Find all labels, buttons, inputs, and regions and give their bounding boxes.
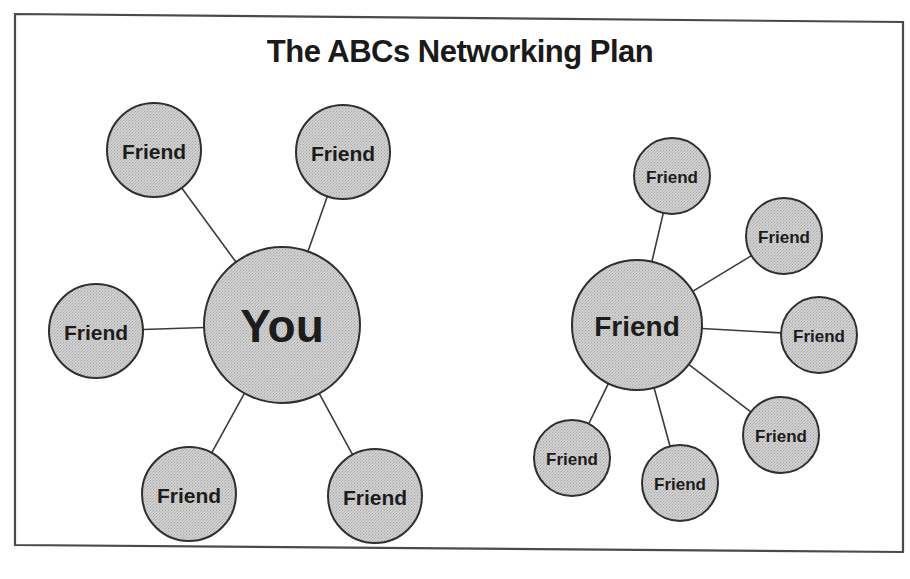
friend-node-label: Friend	[755, 427, 807, 446]
friend-node-label: Friend	[546, 450, 598, 469]
friend-cluster-connector	[689, 364, 751, 411]
friend-node-label: Friend	[122, 140, 186, 163]
friend-cluster-center-node-label: Friend	[594, 311, 680, 342]
friend-node: Friend	[642, 445, 718, 521]
friend-node: Friend	[296, 105, 390, 199]
friend-node-label: Friend	[157, 484, 221, 507]
friend-cluster-connector	[589, 383, 609, 423]
friend-node-label: Friend	[654, 475, 706, 494]
networking-diagram: The ABCs Networking Plan YouFriendFriend…	[0, 0, 910, 579]
friend-cluster-connector	[652, 213, 663, 262]
friend-node: Friend	[534, 420, 610, 496]
friend-node-label: Friend	[758, 228, 810, 247]
node-group: YouFriendFriendFriendFriendFriendFriendF…	[49, 103, 857, 543]
friend-node: Friend	[746, 198, 822, 274]
friend-node: Friend	[743, 397, 819, 473]
friend-node-label: Friend	[343, 486, 407, 509]
you-cluster-center-node-label: You	[240, 300, 323, 352]
friend-cluster-center-node: Friend	[572, 260, 702, 390]
friend-cluster-connector	[654, 388, 670, 447]
you-cluster-connector	[212, 393, 245, 452]
friend-node-label: Friend	[311, 142, 375, 165]
friend-node: Friend	[328, 449, 422, 543]
friend-node-label: Friend	[793, 327, 845, 346]
friend-node-label: Friend	[646, 168, 698, 187]
friend-node: Friend	[781, 297, 857, 373]
friend-cluster-connector	[693, 256, 752, 292]
you-cluster-center-node: You	[204, 247, 360, 403]
friend-node: Friend	[49, 284, 143, 378]
you-cluster-connector	[308, 196, 327, 251]
you-cluster-connector	[182, 188, 236, 262]
friend-node: Friend	[634, 138, 710, 214]
friend-node: Friend	[142, 447, 236, 541]
you-cluster-connector	[143, 328, 204, 330]
friend-node-label: Friend	[64, 321, 128, 344]
you-cluster-connector	[319, 394, 352, 455]
friend-cluster-connector	[702, 329, 781, 333]
friend-node: Friend	[107, 103, 201, 197]
diagram-title: The ABCs Networking Plan	[267, 34, 653, 69]
